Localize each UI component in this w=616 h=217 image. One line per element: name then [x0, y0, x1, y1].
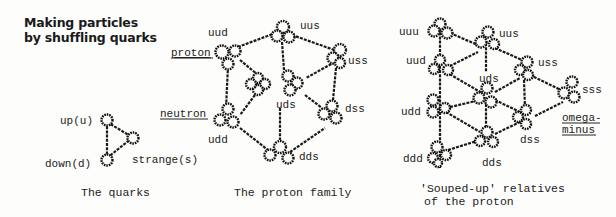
label-uss: uss: [538, 57, 558, 69]
label-uud: uud: [406, 55, 426, 67]
caption-proton-family: The proton family: [234, 186, 351, 199]
label-uuu: uuu: [399, 26, 419, 38]
particle-dds-icon: [265, 141, 294, 164]
label-uss: uss: [348, 55, 368, 67]
up-quark-icon: [102, 115, 113, 126]
caption-souped-up-line2: of the proton: [424, 195, 514, 208]
label-ddd: ddd: [403, 153, 423, 165]
particle-uuu-icon: [429, 19, 453, 39]
particle-uud-icon: [216, 46, 241, 70]
label-omega-line2: minus: [562, 124, 595, 136]
caption-souped-up-line1: 'Souped-up' relatives: [420, 182, 565, 195]
strange-quark-icon: [128, 133, 139, 144]
label-neutron: neutron: [160, 108, 206, 120]
label-uus: uus: [300, 20, 320, 32]
particle-uus-icon: [272, 21, 295, 43]
label-uus: uus: [499, 28, 519, 40]
particle-dds-icon: [475, 127, 498, 148]
particle-udd-icon: [428, 95, 451, 118]
label-uds: uds: [479, 73, 499, 85]
label-down: down(d): [45, 158, 91, 170]
quarks-panel: up(u) down(d) strange(s) The quarks: [45, 115, 198, 200]
label-proton: proton: [171, 47, 211, 59]
particle-sigma-zero-icon: [246, 73, 270, 95]
label-omega-line1: omega-: [562, 112, 602, 124]
caption-quarks: The quarks: [81, 186, 150, 199]
label-sss: sss: [582, 84, 602, 96]
particle-lambda-icon: [283, 71, 303, 96]
label-dds: dds: [299, 151, 319, 163]
label-dds: dds: [482, 157, 502, 169]
label-uud: uud: [208, 27, 228, 39]
label-uds: uds: [276, 99, 296, 111]
souped-up-panel: uuu uus uud uds uss sss udd dss ddd dds …: [399, 19, 602, 209]
label-strange: strange(s): [132, 154, 198, 166]
particle-sss-icon: [559, 77, 580, 103]
label-udd: udd: [208, 134, 228, 146]
particle-uss-icon: [515, 57, 533, 81]
particle-dss-icon: [513, 105, 531, 129]
label-dss: dss: [520, 134, 540, 146]
label-udd: udd: [401, 106, 421, 118]
label-up: up(u): [60, 115, 93, 127]
label-dss: dss: [345, 103, 365, 115]
particle-uds-icon: [474, 83, 497, 108]
proton-family-panel: uud uus uss uds dss udd dds proton neutr…: [160, 20, 368, 199]
particle-dss-icon: [319, 101, 342, 124]
particle-udd-icon: [215, 104, 239, 128]
particle-uus-icon: [476, 27, 500, 50]
down-quark-icon: [102, 155, 113, 166]
